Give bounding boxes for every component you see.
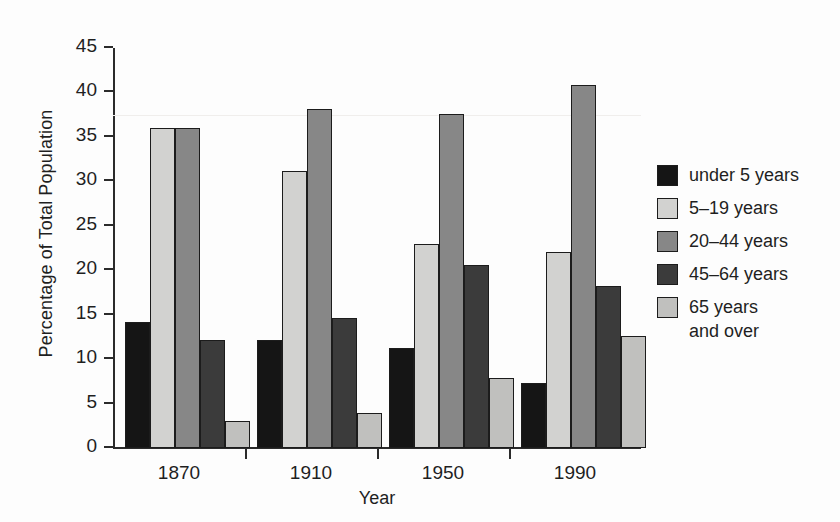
y-tick: 20	[104, 268, 113, 270]
legend-label: under 5 years	[689, 163, 799, 187]
bar[interactable]	[225, 421, 250, 448]
legend-label: 20–44 years	[689, 229, 788, 253]
bar[interactable]	[125, 322, 150, 448]
bar[interactable]	[414, 244, 439, 448]
legend-item[interactable]: 45–64 years	[657, 262, 837, 286]
y-tick-label: 30	[76, 168, 97, 190]
y-tick: 30	[104, 179, 113, 181]
y-tick: 10	[104, 357, 113, 359]
legend-label: 5–19 years	[689, 196, 778, 220]
legend-item[interactable]: 20–44 years	[657, 229, 837, 253]
bar[interactable]	[464, 265, 489, 448]
bar[interactable]	[175, 128, 200, 448]
y-tick: 25	[104, 224, 113, 226]
x-tick-label: 1950	[383, 462, 503, 484]
y-tick-label: 15	[76, 302, 97, 324]
y-tick-label: 45	[76, 35, 97, 57]
bar[interactable]	[307, 109, 332, 448]
bar[interactable]	[389, 348, 414, 448]
bar[interactable]	[257, 340, 282, 448]
bar[interactable]	[621, 336, 646, 448]
x-tick	[377, 448, 379, 459]
y-tick-label: 20	[76, 257, 97, 279]
y-tick-label: 35	[76, 124, 97, 146]
legend-swatch	[657, 231, 678, 252]
y-axis-line	[113, 48, 115, 448]
bar[interactable]	[489, 378, 514, 448]
y-tick-label: 25	[76, 213, 97, 235]
bar-chart: Percentage of Total Population 051015202…	[0, 0, 840, 522]
x-tick-label: 1870	[119, 462, 239, 484]
y-tick: 5	[104, 402, 113, 404]
bar-group	[257, 48, 382, 448]
x-tick-label: 1990	[515, 462, 635, 484]
bar[interactable]	[357, 413, 382, 448]
bar[interactable]	[439, 114, 464, 448]
y-tick-label: 0	[86, 435, 97, 457]
x-axis-title: Year	[113, 488, 641, 509]
y-tick: 15	[104, 313, 113, 315]
y-tick-label: 5	[86, 391, 97, 413]
y-tick: 45	[104, 46, 113, 48]
bar[interactable]	[332, 318, 357, 448]
y-tick: 40	[104, 90, 113, 92]
legend-label: 45–64 years	[689, 262, 788, 286]
plot-area: 051015202530354045 1870191019501990	[113, 48, 641, 448]
bar[interactable]	[150, 128, 175, 448]
x-tick	[245, 448, 247, 459]
y-tick-label: 10	[76, 346, 97, 368]
x-tick-label: 1910	[251, 462, 371, 484]
bar[interactable]	[200, 340, 225, 448]
bar[interactable]	[546, 252, 571, 448]
bar[interactable]	[282, 171, 307, 448]
legend-item[interactable]: 5–19 years	[657, 196, 837, 220]
y-tick-label: 40	[76, 79, 97, 101]
legend-item[interactable]: 65 years and over	[657, 295, 837, 343]
legend-swatch	[657, 297, 678, 318]
legend-item[interactable]: under 5 years	[657, 163, 837, 187]
y-tick: 35	[104, 135, 113, 137]
y-axis-title: Percentage of Total Population	[36, 84, 57, 384]
bar-group	[125, 48, 250, 448]
legend-swatch	[657, 165, 678, 186]
bar-group	[521, 48, 646, 448]
legend-swatch	[657, 198, 678, 219]
x-tick	[509, 448, 511, 459]
bar[interactable]	[596, 286, 621, 448]
legend-swatch	[657, 264, 678, 285]
y-tick: 0	[104, 446, 113, 448]
bar-group	[389, 48, 514, 448]
chart-legend: under 5 years5–19 years20–44 years45–64 …	[657, 163, 837, 352]
legend-label: 65 years and over	[689, 295, 759, 343]
bar[interactable]	[521, 383, 546, 448]
bar[interactable]	[571, 85, 596, 448]
